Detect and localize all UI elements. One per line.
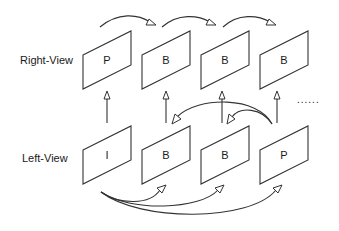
frame-type-label: B <box>221 54 228 66</box>
prediction-structure-diagram: Right-View Left-View P B B B I B B P <box>0 0 339 231</box>
frame-type-label: B <box>280 54 287 66</box>
right-view-frame-1: B <box>142 31 190 89</box>
frame-type-label: P <box>280 149 287 161</box>
arrow-head-icon <box>266 19 276 25</box>
right-view-label: Right-View <box>20 54 73 66</box>
frame-type-label: B <box>162 54 169 66</box>
frame-type-label: I <box>105 149 108 161</box>
right-view-temporal-arrows <box>100 16 276 27</box>
right-view-frame-2: B <box>201 31 249 89</box>
left-view-frame-1: B <box>142 126 190 184</box>
left-view-forward-arrows <box>101 185 282 214</box>
left-view-label: Left-View <box>22 152 68 164</box>
arrow-head-icon <box>163 91 169 99</box>
left-view-frame-3: P <box>260 126 308 184</box>
frame-type-label: P <box>103 54 110 66</box>
right-view-frame-0: P <box>83 31 131 89</box>
arrow-head-icon <box>206 19 216 25</box>
right-view-frame-3: B <box>260 31 308 89</box>
left-view-frame-2: B <box>201 126 249 184</box>
arrow-head-icon <box>104 91 110 99</box>
frame-type-label: B <box>162 149 169 161</box>
left-view-frame-0: I <box>83 126 131 184</box>
frame-type-label: B <box>221 149 228 161</box>
continuation-ellipsis: ...... <box>297 94 320 105</box>
arrow-head-icon <box>172 114 181 124</box>
arrow-head-icon <box>219 91 225 99</box>
arrow-head-icon <box>274 91 280 99</box>
